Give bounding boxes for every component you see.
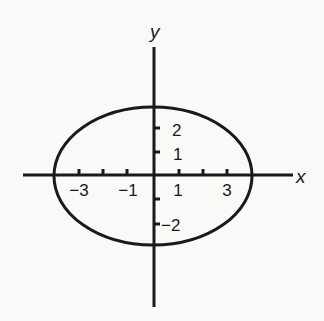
y-axis-label: y bbox=[148, 21, 161, 42]
x-tick-label: 3 bbox=[222, 181, 231, 200]
y-tick-label: 2 bbox=[172, 121, 181, 140]
coordinate-plane: y x −3 −1 1 3 2 1 −2 bbox=[0, 0, 324, 321]
y-tick-label: −2 bbox=[161, 216, 180, 235]
ellipse-diagram: y x −3 −1 1 3 2 1 −2 bbox=[0, 0, 324, 321]
x-tick-label: −1 bbox=[118, 181, 137, 200]
x-tick-label: 1 bbox=[173, 181, 182, 200]
y-tick-label: 1 bbox=[173, 145, 182, 164]
x-tick-label: −3 bbox=[69, 181, 88, 200]
x-axis-label: x bbox=[295, 166, 307, 187]
